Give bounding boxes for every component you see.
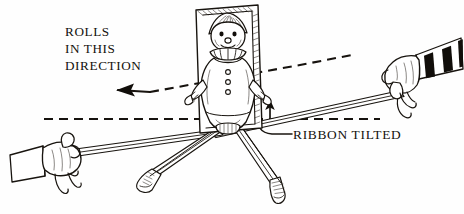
figure-canvas: ROLLS IN THIS DIRECTION RIBBON TILTED — [0, 0, 464, 214]
clown-hip-joint — [216, 123, 240, 134]
clown-left-eye — [219, 32, 223, 37]
direction-label-line-3: DIRECTION — [65, 58, 141, 73]
rolling-clown-figure: ROLLS IN THIS DIRECTION RIBBON TILTED — [0, 0, 464, 214]
ribbon-tilted-label: RIBBON TILTED — [293, 127, 401, 142]
direction-label-line-1: ROLLS — [65, 24, 110, 39]
clown-ruffled-collar — [210, 48, 246, 60]
clown-suit — [201, 58, 255, 131]
ribbon-tilted-text: RIBBON TILTED — [293, 127, 401, 142]
clown-right-eye — [232, 32, 236, 37]
clown-face — [211, 22, 245, 51]
direction-label-line-2: IN THIS — [65, 41, 115, 56]
